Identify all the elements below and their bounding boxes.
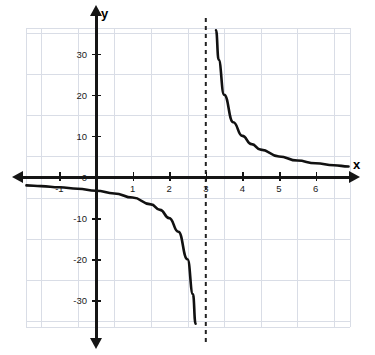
y-axis-title: y — [101, 6, 108, 21]
y-axis-tick-label: -30 — [73, 295, 87, 306]
x-axis-tick — [169, 172, 171, 181]
x-axis-right-arrow-icon — [349, 171, 360, 183]
x-axis-tick — [206, 172, 208, 181]
y-axis-tick-label: -20 — [73, 254, 87, 265]
y-axis-down-arrow-icon — [90, 338, 102, 349]
x-axis-tick-label: 5 — [276, 183, 281, 194]
y-axis-tick — [92, 136, 101, 138]
y-axis-tick — [92, 54, 101, 56]
x-axis-tick — [242, 172, 244, 181]
x-axis-title: x — [353, 157, 360, 172]
y-axis-tick-label: 20 — [76, 89, 87, 100]
y-axis-tick — [92, 218, 101, 220]
y-axis-tick — [92, 300, 101, 302]
x-axis-line — [22, 176, 352, 179]
y-axis-line — [95, 14, 98, 340]
x-axis-tick-label: 2 — [167, 183, 172, 194]
x-axis-tick-label: 4 — [240, 183, 245, 194]
x-axis-tick — [133, 172, 135, 181]
x-axis-tick — [59, 172, 61, 181]
x-axis-tick — [279, 172, 281, 181]
y-axis-tick-label: -10 — [73, 213, 87, 224]
x-axis-tick-label: 6 — [313, 183, 318, 194]
rational-function-chart: -1123456-30-20-100102030 x y — [0, 0, 375, 355]
x-axis-tick — [316, 172, 318, 181]
y-axis-tick — [92, 259, 101, 261]
curve-left-branch — [26, 185, 195, 323]
x-axis-left-arrow-icon — [12, 171, 23, 183]
x-axis-tick-label: -1 — [55, 183, 63, 194]
curve-right-branch — [216, 30, 348, 166]
y-axis-tick-label: 30 — [76, 48, 87, 59]
x-axis-tick-label: 3 — [203, 183, 208, 194]
y-axis-tick — [92, 95, 101, 97]
y-axis-tick-label: 10 — [76, 130, 87, 141]
x-axis-tick-label: 1 — [130, 183, 135, 194]
y-axis-tick-label: 0 — [82, 172, 87, 183]
